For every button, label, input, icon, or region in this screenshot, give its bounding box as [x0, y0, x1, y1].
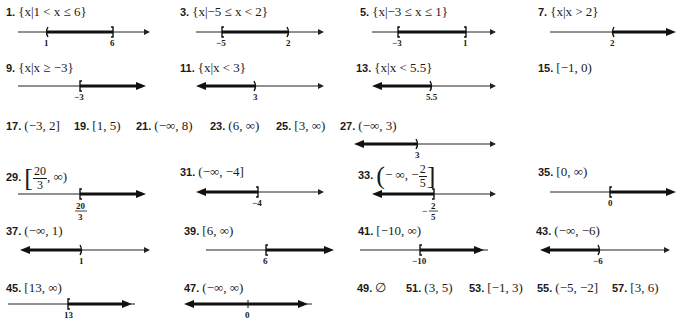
problem-number: 21.: [136, 120, 151, 132]
tick-label: −10: [412, 256, 427, 266]
answer-25: 25.[3, ∞): [276, 118, 325, 134]
problem-number: 41.: [358, 225, 373, 237]
answer-expression: {x|x > 2}: [550, 4, 598, 19]
tick-label: −5: [216, 38, 226, 48]
tick-label: 0: [608, 198, 613, 208]
problem-number: 51.: [406, 282, 421, 294]
answer-expression: (−∞, ∞): [202, 280, 243, 295]
answer-7: 7.{x|x > 2}: [538, 4, 599, 20]
tick-label: −4: [252, 198, 262, 208]
number-line-39: 6: [206, 242, 336, 266]
tick-label: 2: [610, 38, 615, 48]
problem-number: 35.: [538, 166, 553, 178]
number-line-1: 1 6: [18, 24, 148, 48]
answer-21: 21.(−∞, 8): [136, 118, 193, 134]
number-line-41: −10: [360, 242, 490, 266]
answer-expression: {x|x ≥ −3}: [18, 60, 74, 75]
number-line-47: 0: [184, 296, 314, 320]
answer-9: 9.{x|x ≥ −3}: [6, 60, 74, 76]
answer-expression: {x|1 < x ≤ 6}: [18, 4, 87, 19]
answer-55: 55.(−5, −2]: [537, 280, 598, 296]
problem-number: 43.: [536, 225, 551, 237]
answer-expression: ∅: [375, 280, 386, 295]
answer-expression: [0, ∞): [556, 164, 587, 179]
problem-number: 55.: [537, 282, 552, 294]
problem-number: 47.: [184, 282, 199, 294]
answer-47: 47.(−∞, ∞): [184, 280, 243, 296]
answer-expression: {x|x < 3}: [198, 60, 246, 75]
tick-label: 13: [64, 310, 74, 320]
tick-label: −3: [392, 38, 402, 48]
tick-label: 1: [44, 38, 49, 48]
answer-expression: {x|−5 ≤ x < 2}: [192, 4, 268, 19]
answer-17: 17.(−3, 2]: [6, 118, 60, 134]
problem-number: 1.: [6, 6, 15, 18]
problem-number: 7.: [538, 6, 547, 18]
problem-number: 15.: [538, 62, 553, 74]
tick-label: 3: [415, 150, 420, 160]
number-line-27: 3: [354, 136, 484, 160]
answer-expression: {x|−3 ≤ x ≤ 1}: [372, 4, 448, 19]
answer-expression: [3, 6): [630, 280, 658, 295]
problem-number: 33.: [358, 169, 373, 181]
answer-expression: [13, ∞): [24, 280, 61, 295]
problem-number: 11.: [180, 62, 195, 74]
tick-label: 5: [431, 212, 436, 222]
answer-expression: [6, ∞): [202, 223, 233, 238]
tick-label: 20: [76, 201, 86, 211]
answer-expression: (−∞, −4]: [198, 164, 244, 179]
problem-number: 53.: [469, 282, 484, 294]
problem-number: 17.: [6, 120, 21, 132]
answer-27: 27.(−∞, 3): [340, 118, 397, 134]
answer-expression: (6, ∞): [228, 118, 259, 133]
tick-label: 0: [245, 310, 250, 320]
problem-number: 19.: [74, 120, 89, 132]
answer-23: 23.(6, ∞): [210, 118, 259, 134]
tick-label: −: [422, 206, 427, 216]
number-line-3: −5 2: [196, 24, 326, 48]
problem-number: 39.: [184, 225, 199, 237]
answer-39: 39.[6, ∞): [184, 223, 233, 239]
problem-number: 57.: [612, 282, 627, 294]
answer-expression: [−1, 3): [487, 280, 523, 295]
answer-expression: (−∞, 1): [24, 223, 62, 238]
answer-57: 57.[3, 6): [612, 280, 658, 296]
number-line-11: 3: [196, 78, 326, 102]
number-line-35: 0: [550, 184, 677, 208]
number-line-9: −3: [18, 78, 148, 102]
tick-label: 1: [79, 256, 84, 266]
problem-number: 45.: [6, 282, 21, 294]
problem-number: 29.: [6, 171, 21, 183]
number-line-7: 2: [550, 24, 677, 48]
tick-label: 1: [463, 38, 468, 48]
answer-45: 45.[13, ∞): [6, 280, 62, 296]
answer-53: 53.[−1, 3): [469, 280, 523, 296]
tick-label: 6: [110, 38, 115, 48]
answer-expression: [3, ∞): [294, 118, 325, 133]
answer-expression: (−∞, 3): [358, 118, 396, 133]
answer-19: 19.[1, 5): [74, 118, 120, 134]
tick-label: 2: [431, 201, 436, 211]
answer-13: 13.{x|x < 5.5}: [356, 60, 432, 76]
answer-expression: (−3, 2]: [24, 118, 60, 133]
answer-41: 41.[−10, ∞): [358, 223, 421, 239]
number-line-43: −6: [540, 242, 670, 266]
answer-51: 51.(3, 5): [406, 280, 452, 296]
problem-number: 23.: [210, 120, 225, 132]
answer-35: 35.[0, ∞): [538, 164, 587, 180]
problem-number: 13.: [356, 62, 371, 74]
problem-number: 49.: [357, 282, 372, 294]
number-line-13: 5.5: [372, 78, 502, 102]
number-line-29: 20 3: [18, 186, 148, 226]
number-line-45: 13: [8, 296, 138, 320]
tick-label: 2: [286, 38, 291, 48]
answer-expression: (3, 5): [424, 280, 452, 295]
problem-number: 31.: [180, 166, 195, 178]
number-line-31: −4: [196, 184, 326, 208]
problem-number: 27.: [340, 120, 355, 132]
problem-number: 25.: [276, 120, 291, 132]
tick-label: −3: [74, 92, 84, 102]
number-line-5: −3 1: [372, 24, 502, 48]
problem-number: 37.: [6, 225, 21, 237]
answer-5: 5.{x|−3 ≤ x ≤ 1}: [360, 4, 448, 20]
